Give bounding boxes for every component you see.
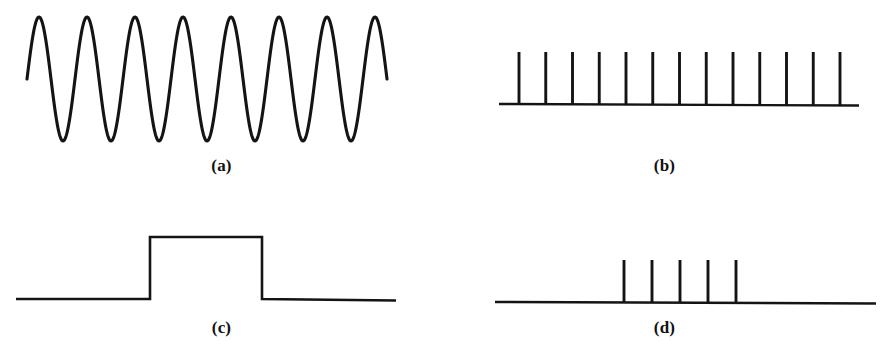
impulse-train-plot-b — [443, 0, 886, 160]
panel-d: (d) — [443, 200, 886, 361]
impulse-group-d — [624, 260, 736, 303]
panel-b-label: (b) — [443, 156, 886, 176]
panel-c: (c) — [0, 200, 443, 361]
sine-wave-path — [27, 17, 387, 141]
panel-c-label: (c) — [0, 318, 443, 338]
figure-container: (a) (b) (c) (d) — [0, 0, 886, 361]
sine-wave-plot — [0, 0, 443, 160]
panel-a: (a) — [0, 0, 443, 200]
panel-b: (b) — [443, 0, 886, 200]
impulse-group-b — [519, 52, 840, 105]
rectangular-pulse-path — [16, 237, 396, 301]
baseline-axis-d — [495, 302, 876, 304]
panel-d-label: (d) — [443, 318, 886, 338]
panel-a-label: (a) — [0, 156, 443, 176]
impulse-train-plot-d — [443, 200, 886, 320]
rectangular-pulse-plot — [0, 200, 443, 320]
